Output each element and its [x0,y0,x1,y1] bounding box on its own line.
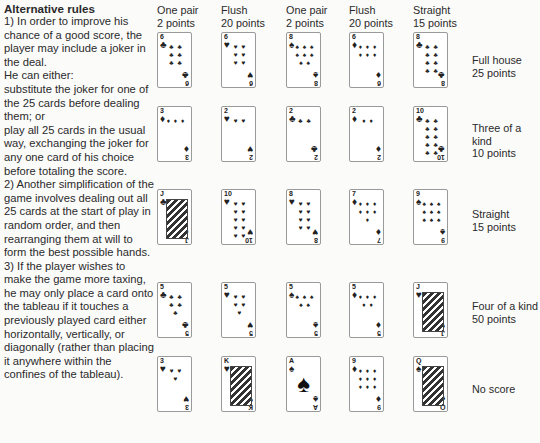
card-pips: ♣ ♣ ♣ ♣ ♣ ♣ [166,43,186,79]
column-points: 20 points [349,17,419,30]
playing-card: 5♠♠5♠ ♠ ♠ ♠ ♠ [286,282,321,338]
card-pips: ♥ ♥ ♥ ♥ ♥ ♥ [230,43,250,79]
suit-icon: ♠ [289,290,294,300]
row-hand: Straight [472,208,540,221]
rule-1-option-b: play all 25 cards in the usual way, exch… [4,124,154,178]
suit-icon: ♦ [352,114,357,124]
card-rank: 5 [185,329,189,337]
playing-card: 6♣♣6♣ ♣ ♣ ♣ ♣ ♣ [157,32,192,88]
rule-1-either: He can either: [4,69,154,83]
playing-card: 6♦♦6♦ ♦ ♦ ♦ ♦ ♦ [349,32,384,88]
card-rank: 2 [377,153,381,161]
card-pips: ♦ ♦ ♦ ♦ ♦ ♦ ♦ [358,200,378,236]
column-hand: Straight [413,4,483,17]
card-rank: 9 [377,403,381,411]
column-score-1: One pair2 points [157,4,227,29]
rule-3: 3) If the player wishes to make the game… [4,260,154,382]
column-hand: One pair [286,4,356,17]
card-rank: 5 [314,329,318,337]
column-points: 2 points [157,17,227,30]
playing-card: 9♦♦9♦ ♦ ♦ ♦ ♦ ♦ ♦ ♦ ♦ [349,356,384,412]
card-pips: ♦ ♦ ♦ [166,117,186,153]
card-pips: ♥ ♥ [230,117,250,153]
playing-card: 5♥♥5♥ ♥ ♥ ♥ ♥ [221,282,256,338]
card-rank: 6 [249,79,253,87]
playing-card: 5♣♣5♣ ♣ ♣ ♣ ♣ [157,282,192,338]
suit-icon: ♦ [352,197,357,207]
row-score-5: No score [472,383,540,396]
row-score-3: Straight15 points [472,208,540,233]
card-rank: 8 [314,79,318,87]
column-hand: Flush [221,4,291,17]
card-rank: 3 [185,403,189,411]
card-rank: 2 [314,153,318,161]
card-rank: 6 [185,79,189,87]
card-pips: ♦ ♦ ♦ ♦ ♦ ♦ ♦ ♦ ♦ [358,367,378,403]
column-points: 15 points [413,17,483,30]
rule-2: 2) Another simplification of the game in… [4,178,154,260]
card-pips: ♣ ♣ ♣ ♣ ♣ ♣ ♣ ♣ ♣ ♣ [422,117,442,153]
row-points: 15 points [472,221,540,234]
column-score-4: Flush20 points [349,4,419,29]
row-points: 50 points [472,313,540,326]
playing-card: A♠♠A♠ [286,356,321,412]
row-score-1: Full house25 points [472,54,540,79]
card-rank: A [313,403,318,411]
playing-card: 3♥♥3♥ ♥ ♥ [157,356,192,412]
playing-card: 2♥♥2♥ ♥ [221,106,256,162]
card-rank: 6 [377,79,381,87]
card-pips: ♣ ♣ [295,117,315,153]
card-rank: 2 [249,153,253,161]
playing-card: 10♥♥10♥ ♥ ♥ ♥ ♥ ♥ ♥ ♥ ♥ ♥ [221,189,256,245]
column-points: 2 points [286,17,356,30]
playing-card: 5♦♦5♦ ♦ ♦ ♦ ♦ [349,282,384,338]
playing-card: 6♥♥6♥ ♥ ♥ ♥ ♥ ♥ [221,32,256,88]
row-hand: Four of a kind [472,300,540,313]
card-rank: 8 [441,79,445,87]
playing-card: Q♠♠Q [413,356,448,412]
card-pips: ♥ ♥ ♥ [166,367,186,403]
card-pips: ♣ ♣ ♣ ♣ ♣ ♣ ♣ ♣ [422,43,442,79]
playing-card: K♥♥K [221,356,256,412]
rule-1: 1) In order to improve his chance of a g… [4,15,154,69]
column-hand: One pair [157,4,227,17]
face-card-portrait-icon [230,366,252,406]
card-pips: ♥ ♥ ♥ ♥ ♥ ♥ ♥ ♥ ♥ ♥ [230,200,250,236]
face-card-portrait-icon [422,292,444,332]
suit-icon: ♠ [289,40,294,50]
row-score-4: Four of a kind50 points [472,300,540,325]
column-score-3: One pair2 points [286,4,356,29]
playing-card: 2♣♣2♣ ♣ [286,106,321,162]
column-score-2: Flush20 points [221,4,291,29]
row-points: 10 points [472,147,540,160]
column-hand: Flush [349,4,419,17]
playing-card: 2♦♦2♦ ♦ [349,106,384,162]
card-pips: ♦ ♦ [358,117,378,153]
row-score-2: Three of a kind10 points [472,122,540,160]
playing-card: 9♠♠9♠ ♠ ♠ ♠ ♠ ♠ ♠ ♠ ♠ [413,189,448,245]
rules-heading: Alternative rules [4,2,154,15]
rule-1-option-a: substitute the joker for one of the 25 c… [4,83,154,124]
card-rank: 8 [314,236,318,244]
card-pips: ♠ ♠ ♠ ♠ ♠ ♠ ♠ ♠ [295,43,315,79]
alternative-rules-text: Alternative rules 1) In order to improve… [4,2,154,382]
playing-card: 8♥♥8♥ ♥ ♥ ♥ ♥ ♥ ♥ ♥ [286,189,321,245]
playing-card: 8♠♠8♠ ♠ ♠ ♠ ♠ ♠ ♠ ♠ [286,32,321,88]
card-rank: 7 [377,236,381,244]
suit-icon: ♦ [352,364,357,374]
card-pips: ♦ ♦ ♦ ♦ ♦ ♦ [358,43,378,79]
playing-card: 7♦♦7♦ ♦ ♦ ♦ ♦ ♦ ♦ [349,189,384,245]
card-pips: ♥ ♥ ♥ ♥ ♥ ♥ ♥ ♥ [295,200,315,236]
card-pips: ♣ ♣ ♣ ♣ ♣ [166,293,186,329]
playing-card: 10♣♣10♣ ♣ ♣ ♣ ♣ ♣ ♣ ♣ ♣ ♣ [413,106,448,162]
card-rank: 9 [441,236,445,244]
row-hand: No score [472,383,540,396]
row-hand: Full house [472,54,540,67]
row-hand: Three of a kind [472,122,540,147]
ace-suit-icon: ♠ [287,372,320,396]
suit-icon: ♠ [416,197,421,207]
face-card-portrait-icon [166,199,188,239]
card-pips: ♠ ♠ ♠ ♠ ♠ [295,293,315,329]
suit-icon: ♦ [352,40,357,50]
playing-card: J♣♣J [157,189,192,245]
